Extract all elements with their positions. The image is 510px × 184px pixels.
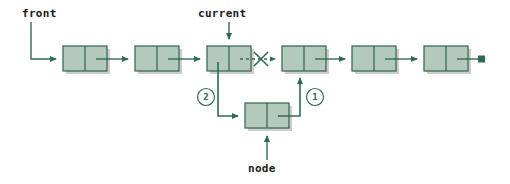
diagram-canvas — [0, 0, 510, 184]
null-terminator-square — [478, 56, 485, 63]
current-pointer-label: current — [198, 8, 246, 20]
front-pointer-arrow — [31, 22, 56, 59]
node-pointer-label: node — [248, 163, 276, 175]
linked-list-diagram: front current node 2 1 — [0, 0, 510, 184]
step-marker-1-label: 1 — [307, 89, 323, 105]
step-marker-2-label: 2 — [198, 89, 214, 105]
list-node-3 — [207, 46, 251, 71]
front-pointer-label: front — [22, 8, 57, 20]
